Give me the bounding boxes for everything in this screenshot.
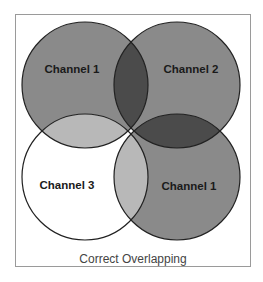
label-channel-2: Channel 2: [164, 63, 219, 75]
diagram-caption: Correct Overlapping: [79, 252, 186, 266]
venn-diagram: Channel 1 Channel 2 Channel 3 Channel 1 …: [0, 0, 263, 282]
label-channel-1-top: Channel 1: [45, 63, 101, 75]
label-channel-3: Channel 3: [40, 179, 95, 191]
label-channel-1-bottom: Channel 1: [162, 180, 218, 192]
